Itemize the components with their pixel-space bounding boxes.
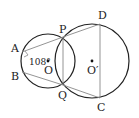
label-c: C bbox=[97, 101, 105, 114]
angle-label: 108° bbox=[29, 57, 51, 67]
label-p: P bbox=[59, 23, 67, 36]
label-d: D bbox=[98, 9, 107, 22]
label-b: B bbox=[11, 70, 19, 83]
label-o-prime: O′ bbox=[87, 64, 99, 77]
center-dot-o-prime bbox=[91, 60, 94, 63]
label-q: Q bbox=[58, 89, 67, 102]
geometry-diagram: A B P Q D C O O′ 108° bbox=[0, 0, 139, 118]
label-a: A bbox=[10, 42, 20, 55]
angle-mark-a bbox=[24, 51, 28, 57]
